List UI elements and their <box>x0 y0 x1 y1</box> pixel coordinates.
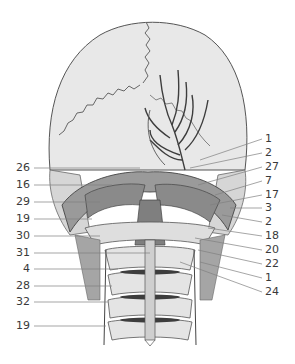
label-24: 24 <box>265 286 279 298</box>
label-20: 20 <box>265 244 279 256</box>
label-1-lower: 1 <box>265 272 272 284</box>
label-22: 22 <box>265 258 279 270</box>
label-4: 4 <box>2 263 30 275</box>
label-1: 1 <box>265 133 272 145</box>
neck-muscle-left <box>75 235 100 300</box>
label-7: 7 <box>265 175 272 187</box>
label-26: 26 <box>2 162 30 174</box>
label-30: 30 <box>2 230 30 242</box>
label-19-bottom: 19 <box>2 320 30 332</box>
skull-illustration <box>0 0 295 364</box>
skull-dome <box>49 22 247 170</box>
label-27: 27 <box>265 161 279 173</box>
label-17: 17 <box>265 189 279 201</box>
label-28: 28 <box>2 280 30 292</box>
spinal-cord-tail <box>145 340 155 346</box>
label-2: 2 <box>265 147 272 159</box>
label-2-lower: 2 <box>265 216 272 228</box>
label-16: 16 <box>2 179 30 191</box>
label-31: 31 <box>2 247 30 259</box>
anatomy-figure: 26 16 29 19 30 31 4 28 32 19 1 2 27 7 17… <box>0 0 295 364</box>
label-29: 29 <box>2 196 30 208</box>
label-32: 32 <box>2 296 30 308</box>
label-3: 3 <box>265 202 272 214</box>
spinal-cord <box>145 240 155 340</box>
label-18: 18 <box>265 230 279 242</box>
label-19: 19 <box>2 213 30 225</box>
